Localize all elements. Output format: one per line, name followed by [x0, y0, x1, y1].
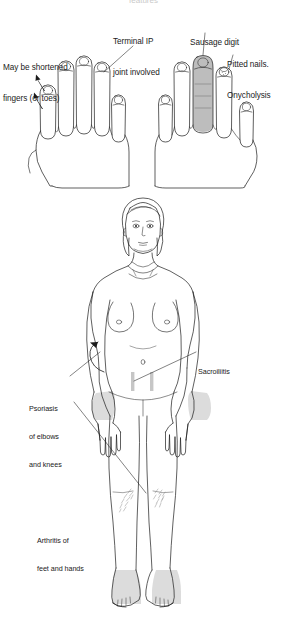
label-terminal-ip: Terminal IP joint involved: [113, 17, 160, 88]
label-pitted-nails: Pitted nails. Onycholysis: [227, 40, 271, 111]
head: [122, 198, 164, 256]
label-arthritis-feet-hands: Arthritis of feet and hands: [37, 517, 84, 583]
label-sacroiliitis: Sacroiliitis: [198, 348, 230, 386]
sacroiliac-joint-bar-right: [150, 372, 153, 391]
ankle-foot-shading-left: [112, 570, 141, 604]
label-psoriasis-elbows-knees: Psoriasis of elbows and knees: [29, 385, 62, 479]
label-may-be-shortened: May be shortened fingers (or toes): [3, 43, 68, 114]
body-panel: [70, 198, 211, 607]
leader-psoriasis: [70, 352, 100, 376]
elbow-curved-arrow: [90, 342, 104, 372]
forearm-wrist-shading-right: [188, 391, 211, 420]
ankle-foot-shading-right: [152, 570, 181, 604]
forearm-wrist-shading-left: [92, 391, 115, 420]
sacroiliac-joint-bar-left: [131, 372, 134, 391]
